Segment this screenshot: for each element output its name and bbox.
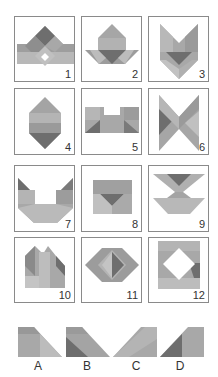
piece-a xyxy=(18,327,62,357)
figure-label: 12 xyxy=(193,290,205,301)
figure-label: 1 xyxy=(65,69,71,80)
figure-label: 5 xyxy=(132,142,138,153)
figure-label: 2 xyxy=(132,69,138,80)
figure-2: 2 xyxy=(81,16,142,82)
figure-11: 11 xyxy=(81,237,142,303)
figure-label: 4 xyxy=(65,142,71,153)
piece-label-a: A xyxy=(28,359,48,373)
figure-10: 10 xyxy=(14,237,75,303)
figure-5: 5 xyxy=(81,88,142,155)
figure-4: 4 xyxy=(14,88,75,155)
figure-label: 3 xyxy=(199,69,205,80)
figure-label: 6 xyxy=(199,142,205,153)
figure-7: 7 xyxy=(14,165,75,232)
figure-label: 8 xyxy=(132,219,138,230)
figure-8: 8 xyxy=(81,165,142,232)
figure-label: 9 xyxy=(199,219,205,230)
piece-d xyxy=(160,327,204,357)
figure-label: 7 xyxy=(65,219,71,230)
piece-label-b: B xyxy=(77,359,97,373)
piece-label-d: D xyxy=(170,359,190,373)
figure-3: 3 xyxy=(148,16,209,82)
piece-label-c: C xyxy=(126,359,146,373)
figure-9: 9 xyxy=(148,165,209,232)
figure-6: 6 xyxy=(148,88,209,155)
piece-c xyxy=(113,327,157,357)
figure-label: 11 xyxy=(127,290,138,301)
figure-12: 12 xyxy=(148,237,209,303)
figure-1: 1 xyxy=(14,16,75,82)
figure-label: 10 xyxy=(59,290,71,301)
piece-b xyxy=(66,327,110,357)
